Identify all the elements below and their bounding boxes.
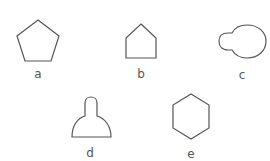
bell-shape-d	[72, 97, 111, 137]
label-c: c	[239, 69, 246, 81]
blob-shape-c	[219, 25, 266, 58]
label-e: e	[187, 148, 194, 160]
pentagon-shape-a	[17, 20, 59, 61]
label-a: a	[34, 68, 41, 80]
hexagon-shape-e	[173, 94, 209, 139]
label-b: b	[137, 68, 145, 80]
house-shape-b	[126, 24, 156, 58]
label-d: d	[86, 147, 94, 159]
